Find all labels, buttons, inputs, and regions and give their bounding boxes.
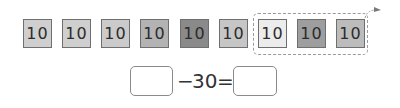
removed-group-dashed-outline	[253, 13, 368, 55]
ten-tile: 10	[62, 19, 91, 48]
ten-tile: 10	[101, 19, 130, 48]
ten-tile: 10	[219, 19, 248, 48]
operand: 30	[192, 68, 217, 94]
equals-sign: =	[217, 68, 234, 94]
ten-tile: 10	[180, 19, 209, 48]
ten-tile: 10	[140, 19, 169, 48]
answer-blank-right[interactable]	[233, 66, 277, 96]
curved-arrow-icon	[362, 4, 386, 20]
equation: − 30 =	[0, 66, 400, 96]
answer-blank-left[interactable]	[130, 66, 173, 96]
ten-tile: 10	[23, 19, 52, 48]
